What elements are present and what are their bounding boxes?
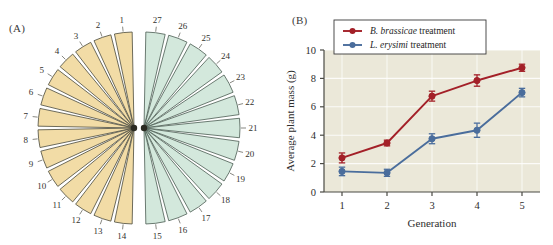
wedge-number-label: 12 [72,215,81,225]
y-tick-label: 4 [311,130,317,141]
wedge-number-label: 5 [39,65,44,75]
wedge-number-label: 10 [37,181,47,191]
data-point [384,140,390,146]
wedge-number-label: 11 [53,200,62,210]
wedge-number-label: 14 [117,231,127,241]
y-tick-label: 2 [311,158,316,169]
wedge-number-label: 19 [236,174,246,184]
data-point [339,155,345,161]
wedge-number-label: 4 [55,46,60,56]
wedge-number-label: 1 [120,15,125,25]
x-tick-label: 4 [474,200,480,211]
wedge-number-label: 21 [249,123,258,133]
x-axis-label: Generation [408,217,457,229]
y-axis-label: Average plant mass (g) [284,70,297,172]
x-tick-label: 1 [339,200,344,211]
wedge-number-label: 18 [221,195,231,205]
legend-entry-label: L. erysimi treatment [369,40,447,50]
wedge-number-label: 9 [29,159,34,169]
x-tick-label: 2 [384,200,389,211]
x-tick-label: 5 [519,200,524,211]
wedge-number-label: 25 [201,33,211,43]
data-point [519,90,525,96]
y-tick-label: 8 [311,73,316,84]
data-point [339,168,345,174]
data-point [429,136,435,142]
wedge-number-label: 6 [29,87,34,97]
legend-entry-label: B. brassicae treatment [370,26,456,36]
wedge-number-label: 20 [245,149,255,159]
wedge-number-label: 8 [23,135,28,145]
y-tick-label: 6 [311,101,316,112]
radial-wedge-svg: 1234567891011121314272625242322212019181… [0,0,278,245]
data-point [474,127,480,133]
wedge-number-label: 23 [236,72,246,82]
wedge-number-label: 24 [221,51,231,61]
wedge-number-label: 3 [74,31,79,41]
panel-a-radial-diagram: 1234567891011121314272625242322212019181… [0,0,278,245]
panel-b-line-chart: 0246810 12345 Average plant mass (g) Gen… [278,0,553,245]
y-axis-ticks: 0246810 [306,45,325,198]
data-point [519,65,525,71]
wedge-number-label: 15 [153,231,163,241]
line-chart-svg: 0246810 12345 Average plant mass (g) Gen… [278,0,553,245]
wedge-number-label: 13 [93,226,103,236]
wedge-number-label: 17 [201,213,211,223]
y-tick-label: 0 [311,187,316,198]
data-point [429,93,435,99]
y-tick-label: 10 [306,45,317,56]
wedge-number-label: 22 [245,97,254,107]
wedge-number-label: 27 [153,15,163,25]
wedge-number-label: 16 [178,225,188,235]
wedge-number-label: 2 [96,20,101,30]
x-axis-ticks: 12345 [339,192,524,211]
data-point [384,170,390,176]
data-point [474,77,480,83]
x-tick-label: 3 [429,200,434,211]
wedge-number-label: 7 [23,111,28,121]
chart-legend: B. brassicae treatmentL. erysimi treatme… [334,20,486,54]
wedge-number-label: 26 [178,21,188,31]
figure-root: (A) 123456789101112131427262524232221201… [0,0,553,245]
left-fan-wedges [38,32,137,224]
